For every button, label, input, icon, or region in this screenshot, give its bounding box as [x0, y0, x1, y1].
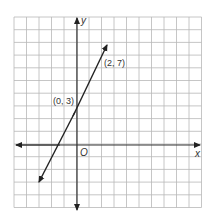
y-axis-label: y: [80, 15, 87, 26]
x-axis-label: x: [194, 148, 201, 159]
point-label-0-3: (0, 3): [53, 96, 74, 106]
origin-label: O: [80, 147, 88, 158]
coordinate-graph: y x O (0, 3) (2, 7): [0, 0, 214, 220]
plotted-line-lower: [39, 112, 75, 182]
point-label-2-7: (2, 7): [104, 58, 125, 68]
grid: [14, 17, 202, 208]
